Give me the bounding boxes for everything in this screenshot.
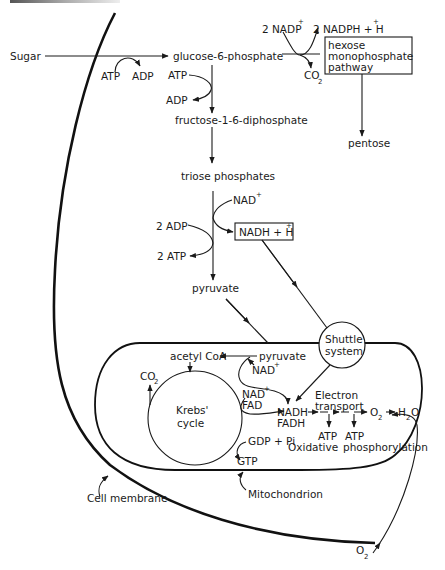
nad-nadh-arrow [213,200,233,232]
label-pyruvate-2: pyruvate [259,350,306,362]
label-acetyl-coa: acetyl CoA [170,350,227,362]
label-phosphorylation: phosphorylation [343,441,428,453]
label-nad-1-sup: + [256,191,262,199]
nadh-shuttle-arrowhead [262,240,297,287]
label-atp-1: ATP [101,70,120,82]
label-atp-2: ATP [168,69,187,81]
label-nad-2: NAD [252,364,275,376]
label-nad-3-sup: + [264,385,270,393]
pyruvate-mito-arrowhead [226,299,249,323]
label-h2o-sub: 2 [406,414,410,422]
atp-adp-arrow-2 [189,75,211,100]
label-nadp-sup: + [298,18,304,26]
label-mitochondrion: Mitochondrion [248,488,323,500]
label-2atp: 2 ATP [157,250,186,262]
metabolism-diagram: Sugar ATP ADP glucose-6-phosphate 2 NADP… [0,0,445,570]
label-fad: FAD [242,399,262,411]
label-nadph-sup: + [373,18,379,26]
label-shuttle-1: Shuttle [325,333,363,345]
o2-input-arrowhead [373,543,380,553]
label-gtp: GTP [237,455,258,467]
label-nad-2-sup: + [274,361,280,369]
label-pyruvate-1: pyruvate [192,282,239,294]
label-shuttle-2: system [325,345,363,357]
label-o2-mito-sub: 2 [378,414,382,422]
label-fadh: FADH [277,417,305,429]
label-co2-krebs-sub: 2 [154,378,158,386]
label-adp-1: ADP [132,70,154,82]
label-krebs-1: Krebs' [176,404,208,416]
label-h2o-h: H [398,406,406,418]
label-2adp: 2 ADP [156,220,188,232]
adp-atp-arrow [188,225,213,256]
label-hmp-3: pathway [328,61,373,73]
cell-membrane-curve [54,13,375,543]
label-oxidative: Oxidative [288,441,338,453]
label-cell-membrane: Cell membrane [87,492,167,504]
label-pentose: pentose [348,137,390,149]
label-nadp: 2 NADP [262,23,301,35]
label-nad-1: NAD [233,194,256,206]
label-transport: transport [315,400,364,412]
label-glucose-6-phosphate: glucose-6-phosphate [173,50,283,62]
label-fructose: fructose-1-6-diphosphate [175,114,308,126]
label-adp-2: ADP [166,94,188,106]
label-h2o-o: O [411,406,419,418]
label-o2-bottom-sub: 2 [364,553,368,561]
label-sugar: Sugar [10,50,41,62]
label-triose: triose phosphates [181,170,275,182]
label-krebs-2: cycle [177,417,204,429]
co2-release-arrow [300,55,311,68]
label-nadh-box-sup: + [286,222,292,230]
label-co2-top-sub: 2 [318,78,322,86]
mitochondrion-pointer [240,472,246,490]
